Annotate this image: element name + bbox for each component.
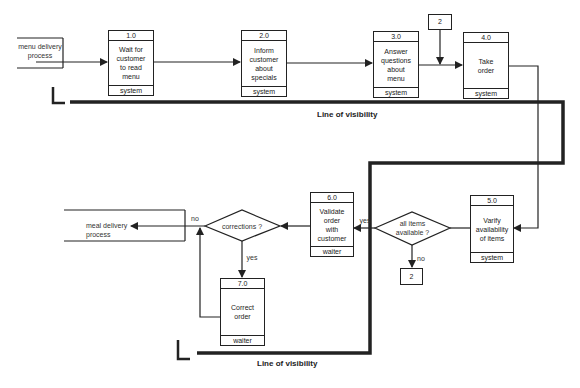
process-4-take-order: 4.0 Take order system xyxy=(463,32,509,99)
flow-7-return xyxy=(200,228,220,317)
decision-all-items-available: all items available ? xyxy=(385,219,440,237)
process-number: 1.0 xyxy=(109,31,153,41)
external-entity-end: meal delivery process xyxy=(86,221,146,239)
decision2-no-label: no xyxy=(189,214,201,223)
process-role: system xyxy=(242,86,286,96)
process-role: system xyxy=(471,252,513,262)
line-of-visibility-label-bottom: Line of visibility xyxy=(257,359,317,368)
process-role: system xyxy=(374,87,418,97)
process-number: 5.0 xyxy=(471,196,513,206)
process-label: Answer questions about menu xyxy=(374,42,418,87)
process-number: 4.0 xyxy=(464,33,508,43)
process-label: Inform customer about specials xyxy=(242,41,286,86)
decision1-no-label: no xyxy=(415,254,427,263)
process-number: 2.0 xyxy=(242,31,286,41)
line-of-visibility-label-top: Line of visibility xyxy=(317,110,377,119)
process-5-verify-availability: 5.0 Varify availability of items system xyxy=(470,195,514,263)
process-number: 3.0 xyxy=(374,32,418,42)
decision-corrections: corrections ? xyxy=(212,222,272,231)
process-7-correct-order: 7.0 Correct order waiter xyxy=(220,278,265,346)
process-label: Take order xyxy=(464,43,508,88)
decision2-yes-label: yes xyxy=(245,253,259,262)
process-role: system xyxy=(109,85,153,95)
connector-2-bottom: 2 xyxy=(400,268,423,285)
process-6-validate-order: 6.0 Validate order with customer waiter xyxy=(310,192,354,257)
process-3-answer-questions: 3.0 Answer questions about menu system xyxy=(373,31,419,98)
process-role: waiter xyxy=(311,246,353,256)
process-label: Validate order with customer xyxy=(311,203,353,246)
process-number: 6.0 xyxy=(311,193,353,203)
connector-2-top: 2 xyxy=(428,14,452,30)
process-2-inform-specials: 2.0 Inform customer about specials syste… xyxy=(241,30,287,97)
process-number: 7.0 xyxy=(221,279,264,289)
process-label: Wait for customer to read menu xyxy=(109,41,153,85)
process-label: Correct order xyxy=(221,289,264,335)
process-label: Varify availability of items xyxy=(471,206,513,252)
process-role: system xyxy=(464,88,508,98)
line-of-visibility-bottom-marker xyxy=(178,340,190,359)
process-role: waiter xyxy=(221,335,264,345)
process-1-wait-for-customer: 1.0 Wait for customer to read menu syste… xyxy=(108,30,154,96)
decision1-yes-label: yes xyxy=(358,216,372,225)
external-entity-start: menu delivery process xyxy=(18,42,62,60)
